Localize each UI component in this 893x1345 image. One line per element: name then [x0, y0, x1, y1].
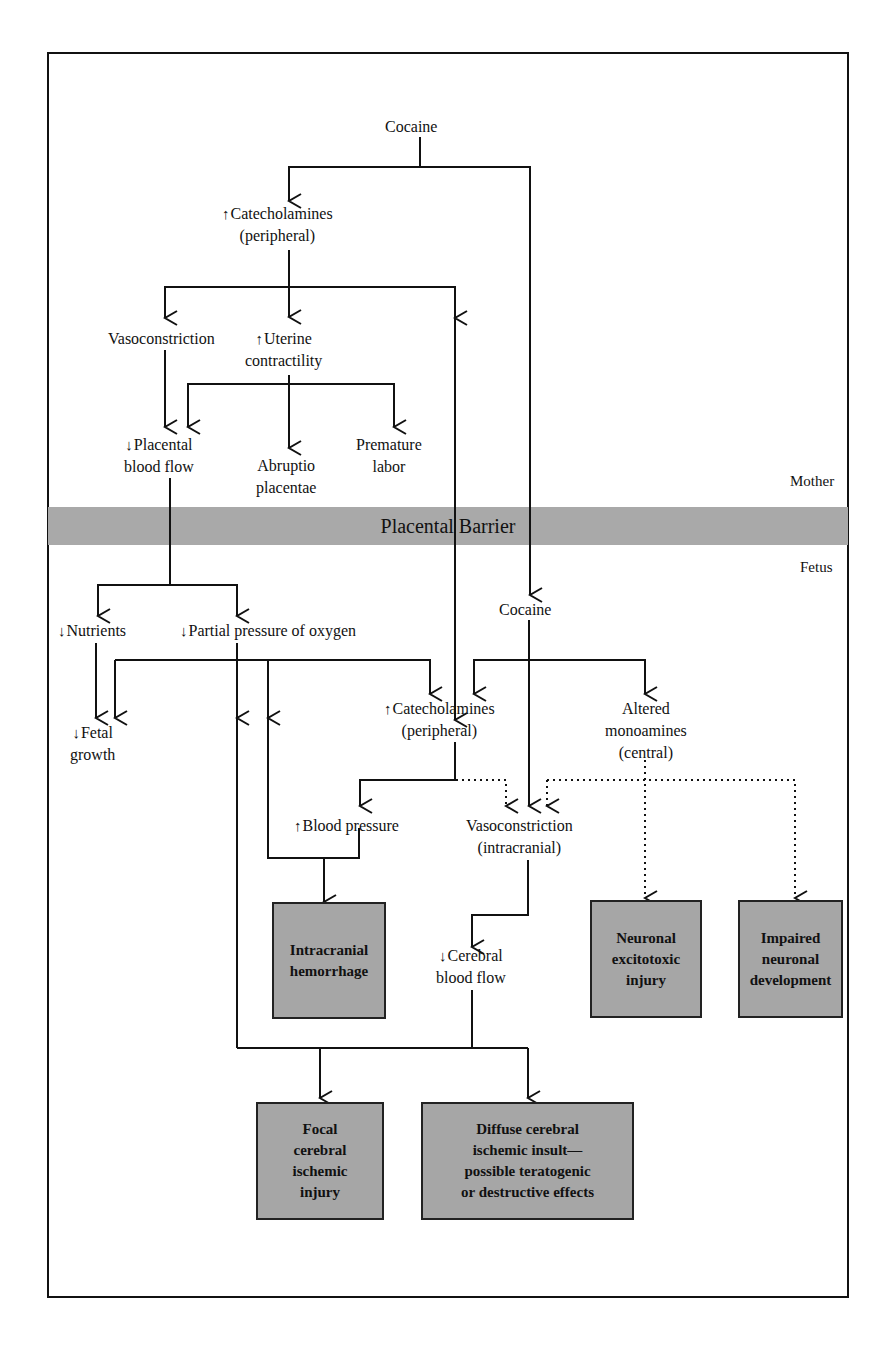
node-label: Catecholamines: [231, 205, 333, 222]
node-label: Cocaine: [385, 118, 437, 135]
increase-arrow-icon: ↑: [384, 701, 392, 717]
node-sublabel: (peripheral): [384, 720, 495, 742]
outcome-label: Diffuse cerebral ischemic insult— possib…: [461, 1119, 594, 1203]
decrease-arrow-icon: ↓: [180, 623, 188, 639]
node-sublabel: blood flow: [124, 456, 194, 478]
node-label: Premature: [356, 434, 422, 456]
node-sublabel: (peripheral): [222, 225, 333, 247]
increase-arrow-icon: ↑: [294, 818, 302, 834]
node-sublabel: growth: [70, 744, 115, 766]
outcome-intracranial-hemorrhage: Intracranial hemorrhage: [272, 902, 386, 1019]
node-sublabel: blood flow: [436, 967, 506, 989]
node-label: Altered: [605, 698, 687, 720]
node-catecholamines-mother: ↑Catecholamines (peripheral): [222, 203, 333, 247]
outcome-focal-cerebral-ischemic-injury: Focal cerebral ischemic injury: [256, 1102, 384, 1220]
node-premature-labor: Premature labor: [356, 434, 422, 478]
node-vasoconstriction-intracranial: Vasoconstriction (intracranial): [466, 815, 573, 859]
node-cerebral-blood-flow: ↓Cerebral blood flow: [436, 945, 506, 989]
node-label: Uterine: [264, 330, 312, 347]
node-label: Cocaine: [499, 601, 551, 618]
node-vasoconstriction-mother: Vasoconstriction: [108, 328, 215, 350]
decrease-arrow-icon: ↓: [58, 623, 66, 639]
increase-arrow-icon: ↑: [255, 331, 263, 347]
node-label: Vasoconstriction: [466, 815, 573, 837]
outcome-label: Neuronal excitotoxic injury: [612, 928, 680, 991]
node-cocaine-mother: Cocaine: [385, 116, 437, 138]
outcome-impaired-neuronal-development: Impaired neuronal development: [738, 900, 843, 1018]
node-abruptio-placentae: Abruptio placentae: [256, 455, 316, 499]
node-catecholamines-fetus: ↑Catecholamines (peripheral): [384, 698, 495, 742]
outcome-label: Intracranial hemorrhage: [290, 940, 368, 982]
node-label: Vasoconstriction: [108, 330, 215, 347]
outcome-neuronal-excitotoxic-injury: Neuronal excitotoxic injury: [590, 900, 702, 1018]
node-placental-blood-flow: ↓Placental blood flow: [124, 434, 194, 478]
node-label: Fetal: [81, 724, 113, 741]
outcome-label: Focal cerebral ischemic injury: [293, 1119, 348, 1203]
decrease-arrow-icon: ↓: [72, 725, 80, 741]
outcome-diffuse-cerebral-ischemic-insult: Diffuse cerebral ischemic insult— possib…: [421, 1102, 634, 1220]
node-nutrients: ↓Nutrients: [58, 620, 126, 642]
node-partial-pressure-oxygen: ↓Partial pressure of oxygen: [180, 620, 356, 642]
decrease-arrow-icon: ↓: [125, 437, 133, 453]
node-blood-pressure: ↑Blood pressure: [294, 815, 399, 837]
node-label: Placental: [134, 436, 193, 453]
node-label: Abruptio: [256, 455, 316, 477]
node-sublabel: contractility: [245, 350, 322, 372]
node-sublabel: (central): [605, 742, 687, 764]
increase-arrow-icon: ↑: [222, 206, 230, 222]
node-sublabel: placentae: [256, 477, 316, 499]
node-sublabel: monoamines: [605, 720, 687, 742]
node-label: Partial pressure of oxygen: [189, 622, 357, 639]
node-fetal-growth: ↓Fetal growth: [70, 722, 115, 766]
node-label: Cerebral: [448, 947, 503, 964]
node-sublabel: labor: [356, 456, 422, 478]
node-label: Blood pressure: [303, 817, 399, 834]
decrease-arrow-icon: ↓: [439, 948, 447, 964]
outcome-label: Impaired neuronal development: [750, 928, 832, 991]
node-label: Catecholamines: [393, 700, 495, 717]
node-label: Nutrients: [67, 622, 127, 639]
node-uterine-contractility: ↑Uterine contractility: [245, 328, 322, 372]
node-sublabel: (intracranial): [466, 837, 573, 859]
node-altered-monoamines: Altered monoamines (central): [605, 698, 687, 764]
node-cocaine-fetus: Cocaine: [499, 599, 551, 621]
